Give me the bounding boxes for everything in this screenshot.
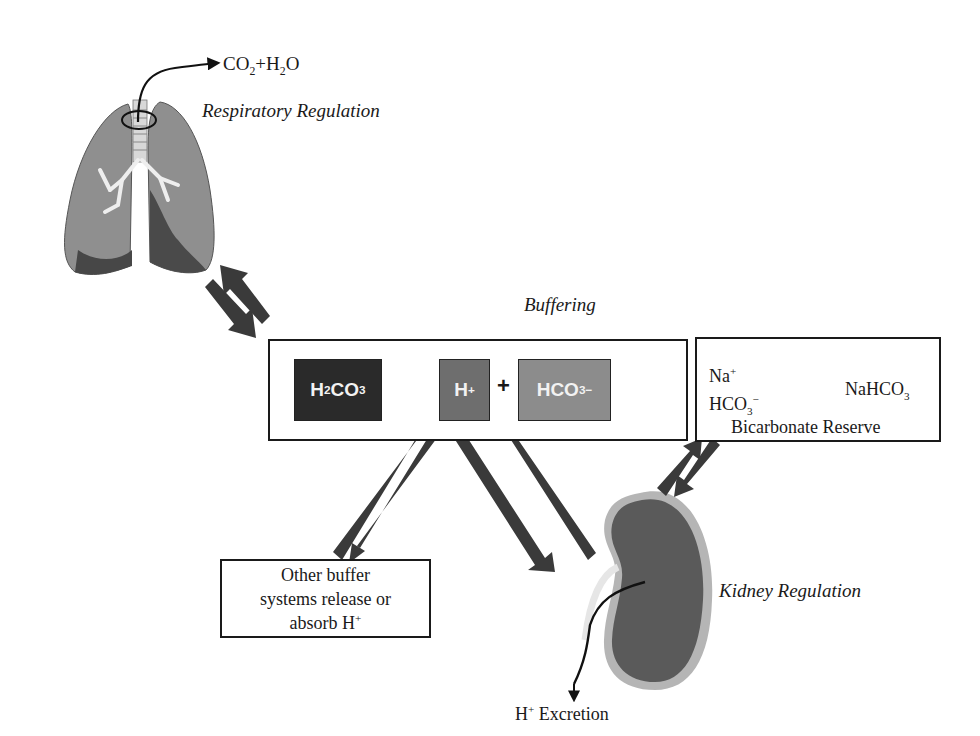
buffering-label: Buffering xyxy=(524,294,596,316)
co2-h2o-label: CO2+H2O xyxy=(223,53,299,75)
respiratory-regulation-label: Respiratory Regulation xyxy=(202,100,380,122)
kidney-reserve-arrows xyxy=(657,438,720,497)
lungs-icon xyxy=(65,63,218,274)
na-plus-label: Na+ xyxy=(709,366,736,387)
kidney-icon xyxy=(574,491,712,700)
hco3-minus-label: HCO3− xyxy=(709,394,759,415)
other-buffer-line3: absorb H+ xyxy=(222,611,429,635)
other-buffer-line1: Other buffer xyxy=(222,563,429,587)
kidney-regulation-label: Kidney Regulation xyxy=(719,580,861,602)
h-excretion-label: H+ Excretion xyxy=(515,704,609,725)
lung-buffer-arrows xyxy=(205,265,270,338)
h2co3-block: H2CO3 xyxy=(294,359,382,421)
other-buffer-line2: systems release or xyxy=(222,587,429,611)
h-plus-block: H+ xyxy=(439,359,490,421)
nahco3-label: NaHCO3 xyxy=(845,379,910,400)
hco3-block: HCO3− xyxy=(518,359,611,421)
plus-sign: + xyxy=(497,373,510,399)
bicarbonate-reserve-label: Bicarbonate Reserve xyxy=(731,417,880,438)
other-buffer-systems-box: Other buffer systems release or absorb H… xyxy=(220,559,431,638)
